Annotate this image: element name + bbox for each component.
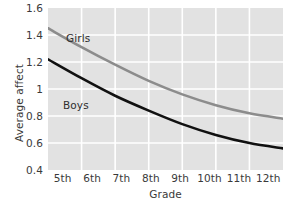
y-tick-label: 0.4 (4, 165, 48, 176)
x-axis-title: Grade (48, 188, 283, 200)
x-tick-label: 10th (195, 173, 224, 189)
x-tick-label: 12th (254, 173, 283, 189)
y-tick-label: 1 (4, 84, 48, 95)
y-tick-label: 0.6 (4, 138, 48, 149)
affect-by-grade-line-chart: Average affect 1.61.41.210.80.60.4 Girls… (0, 0, 292, 205)
y-tick-label: 1.4 (4, 30, 48, 41)
y-tick-label: 1.2 (4, 57, 48, 68)
y-axis-tick-labels: 1.61.41.210.80.60.4 (0, 0, 48, 205)
series-label-girls: Girls (66, 33, 90, 44)
x-tick-label: 8th (136, 173, 165, 189)
x-tick-label: 5th (48, 173, 77, 189)
x-axis-tick-labels: 5th6th7th8th9th10th11th12th (48, 173, 283, 189)
x-tick-label: 9th (166, 173, 195, 189)
x-tick-label: 7th (107, 173, 136, 189)
y-tick-label: 0.8 (4, 111, 48, 122)
x-tick-label: 6th (77, 173, 106, 189)
x-tick-label: 11th (224, 173, 253, 189)
y-tick-label: 1.6 (4, 3, 48, 14)
series-label-boys: Boys (63, 100, 89, 111)
